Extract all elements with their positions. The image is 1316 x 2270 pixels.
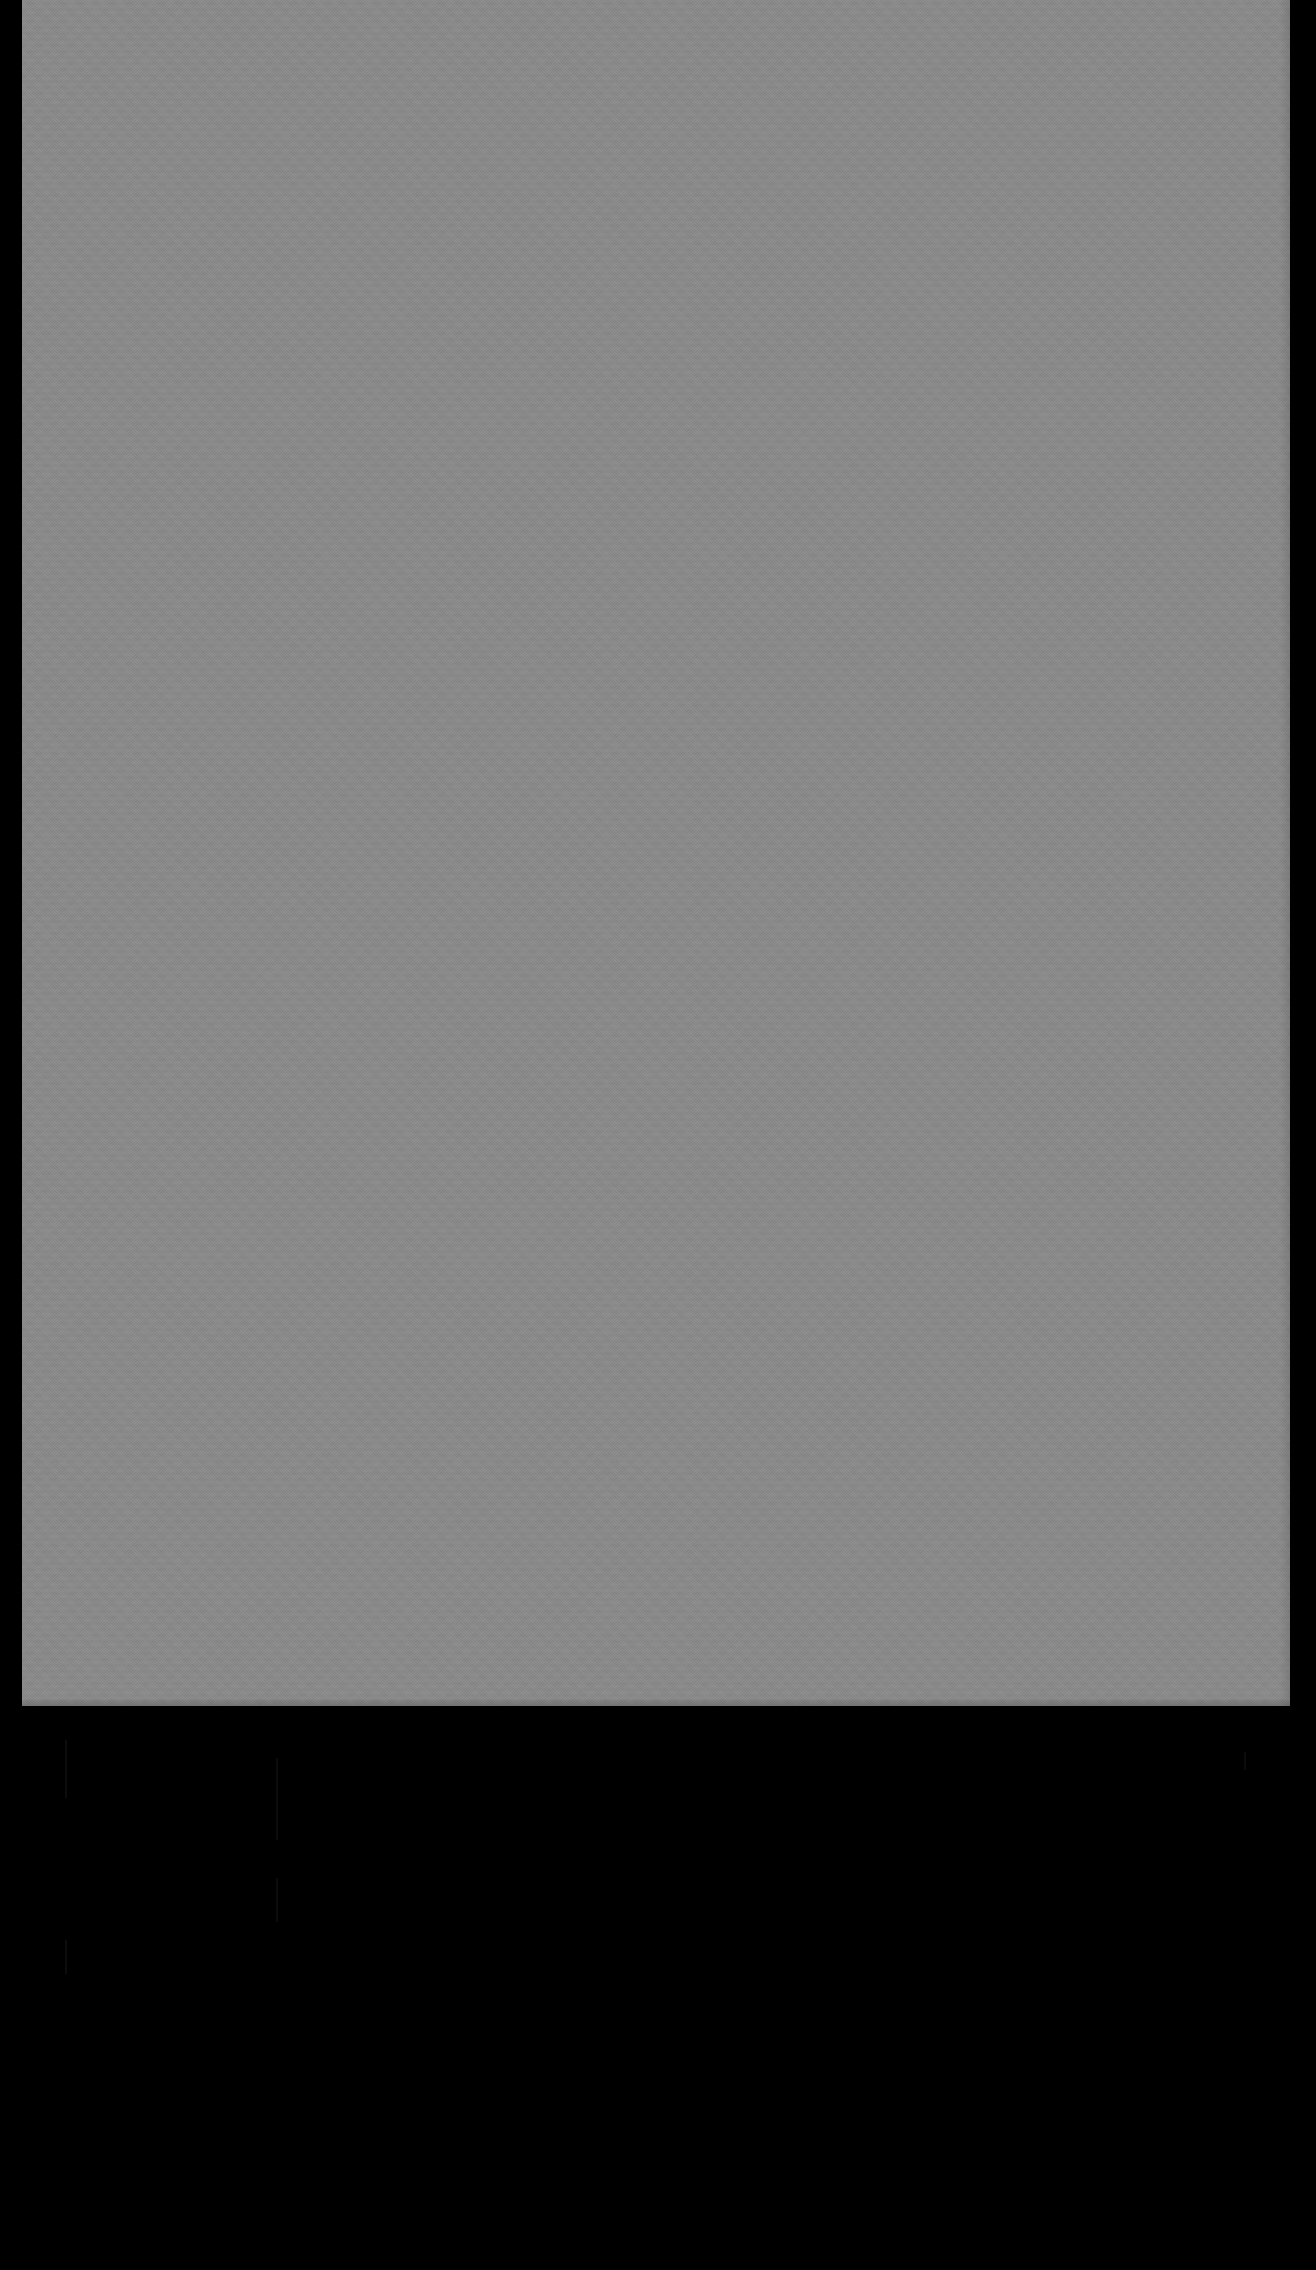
gray-panel (22, 0, 1290, 1706)
left-black-margin (0, 0, 22, 1706)
gray-panel-right-edge-shading (1280, 0, 1290, 1706)
lower-black-area (0, 1706, 1316, 2270)
faint-artifact-a (65, 1740, 67, 1798)
gray-panel-bottom-edge-shading (22, 1698, 1290, 1706)
right-black-margin (1290, 0, 1316, 1706)
faint-artifact-c (276, 1758, 278, 1840)
screen-capture: Near-featureless capture: a single large… (0, 0, 1316, 2270)
faint-artifact-e (1244, 1752, 1246, 1770)
faint-artifact-d (276, 1878, 278, 1922)
faint-artifact-b (65, 1940, 67, 1974)
